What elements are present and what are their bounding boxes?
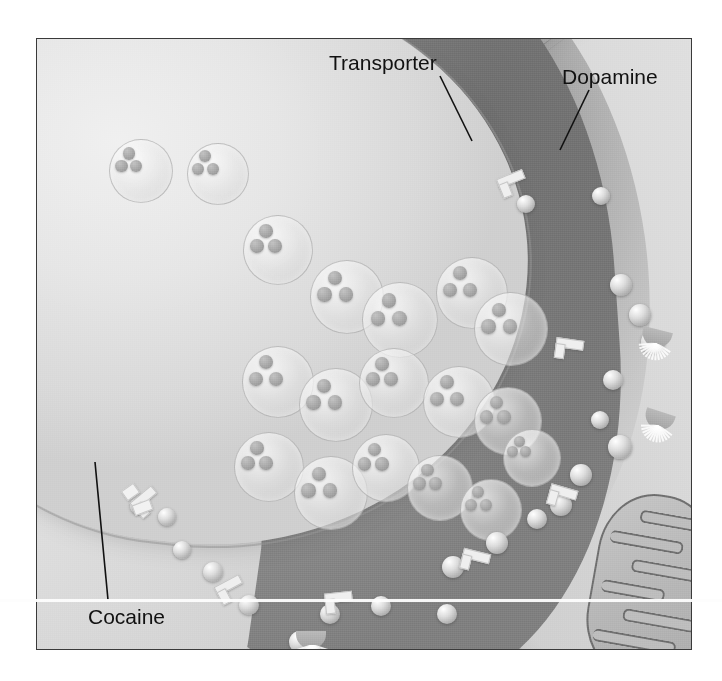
paper-grain [37, 39, 691, 649]
label-dopamine: Dopamine [562, 66, 658, 87]
illustration-stage: Transporter Dopamine Cocaine [0, 0, 722, 681]
label-cocaine: Cocaine [88, 606, 165, 627]
scanline-artifact [0, 599, 722, 602]
label-transporter: Transporter [329, 52, 437, 73]
synapse-figure [36, 38, 692, 650]
